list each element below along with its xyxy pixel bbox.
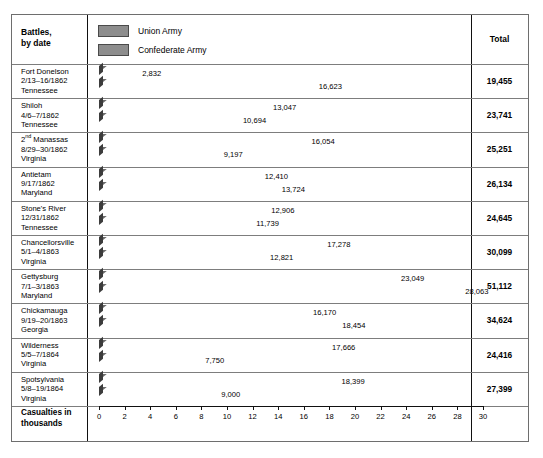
battle-label: Spotsylvania5/8–19/1864Virginia (21, 375, 87, 403)
confederate-bar[interactable]: 13,724 (99, 184, 275, 195)
table-row[interactable]: Shiloh4/6–7/1862Tennessee13,04710,69423,… (12, 98, 528, 132)
union-bar[interactable]: 23,049 (99, 273, 394, 284)
axis-tick (201, 406, 202, 410)
axis-tick-label: 2 (122, 412, 126, 421)
legend: Union Army Confederate Army (98, 23, 207, 61)
total-value: 19,455 (471, 76, 528, 86)
total-value: 30,099 (471, 247, 528, 257)
axis-tick (406, 406, 407, 410)
bar-group: 16,17018,454 (99, 303, 528, 337)
axis-line (99, 406, 483, 407)
union-bar[interactable]: 17,278 (99, 239, 320, 250)
axis-tick-label: 16 (300, 412, 308, 421)
axis-tick (176, 406, 177, 410)
total-value: 23,741 (471, 110, 528, 120)
confederate-bar-value: 9,197 (224, 149, 243, 160)
union-bar-value: 12,906 (271, 205, 294, 216)
confederate-bar[interactable]: 9,197 (99, 149, 217, 160)
confederate-bar[interactable]: 18,454 (99, 320, 335, 331)
axis-tick (457, 406, 458, 410)
battles-column-heading: Battles, by date (21, 27, 85, 49)
union-bar[interactable]: 18,399 (99, 376, 335, 387)
table-row[interactable]: Chancellorsville5/1–4/1863Virginia17,278… (12, 235, 528, 269)
battle-date: 7/1–3/1863 (21, 282, 87, 291)
battle-state: Tennessee (21, 120, 87, 129)
table-row[interactable]: Gettysburg7/1–3/1863Maryland23,04928,063… (12, 269, 528, 303)
confederate-bar[interactable]: 12,821 (99, 252, 263, 263)
union-bar[interactable]: 2,832 (99, 68, 135, 79)
table-row[interactable]: 2nd Manassas8/29–30/1862Virginia16,0549,… (12, 132, 528, 166)
legend-item-confederate: Confederate Army (98, 42, 207, 58)
union-bar[interactable]: 12,906 (99, 205, 264, 216)
battle-name: Fort Donelson (21, 67, 87, 76)
total-value: 51,112 (471, 281, 528, 291)
battle-label: Stone's River12/31/1862Tennessee (21, 204, 87, 232)
union-bar[interactable]: 17,666 (99, 342, 325, 353)
union-bar-value: 23,049 (401, 273, 424, 284)
battle-state: Virginia (21, 359, 87, 368)
battle-date: 4/6–7/1862 (21, 111, 87, 120)
confederate-bar-value: 13,724 (282, 184, 305, 195)
table-row[interactable]: Fort Donelson2/13–16/1862Tennessee2,8321… (12, 64, 528, 98)
axis-tick-label: 22 (376, 412, 384, 421)
battle-state: Tennessee (21, 223, 87, 232)
battle-label: Gettysburg7/1–3/1863Maryland (21, 272, 87, 300)
battle-label: Chickamauga9/19–20/1863Georgia (21, 306, 87, 334)
union-bar[interactable]: 16,054 (99, 136, 304, 147)
bar-group: 13,04710,694 (99, 98, 528, 132)
battle-label: 2nd Manassas8/29–30/1862Virginia (21, 135, 87, 163)
union-bar-value: 17,278 (327, 239, 350, 250)
battle-date: 2/13–16/1862 (21, 76, 87, 85)
table-row[interactable]: Wilderness5/5–7/1864Virginia17,6667,7502… (12, 338, 528, 372)
bar-group: 2,83216,623 (99, 64, 528, 98)
bar-group: 17,27812,821 (99, 235, 528, 269)
total-value: 24,416 (471, 350, 528, 360)
battle-date: 8/29–30/1862 (21, 145, 87, 154)
bar-group: 16,0549,197 (99, 132, 528, 166)
confederate-bar-value: 9,000 (221, 389, 240, 400)
axis-tick-label: 10 (223, 412, 231, 421)
union-bar-value: 17,666 (332, 342, 355, 353)
union-bar-value: 16,170 (313, 307, 336, 318)
axis-tick (381, 406, 382, 410)
axis-tick-label: 0 (97, 412, 101, 421)
battle-name: Spotsylvania (21, 375, 87, 384)
union-bar[interactable]: 13,047 (99, 102, 266, 113)
table-row[interactable]: Spotsylvania5/8–19/1864Virginia18,3999,0… (12, 372, 528, 406)
confederate-bar[interactable]: 9,000 (99, 389, 214, 400)
confederate-bar[interactable]: 10,694 (99, 115, 236, 126)
table-row[interactable]: Stone's River12/31/1862Tennessee12,90611… (12, 201, 528, 235)
total-value: 24,645 (471, 213, 528, 223)
confederate-bar-value: 12,821 (270, 252, 293, 263)
confederate-bar-value: 11,739 (256, 218, 279, 229)
axis-tick (125, 406, 126, 410)
battle-date: 5/5–7/1864 (21, 350, 87, 359)
confederate-bar[interactable]: 28,063 (99, 286, 458, 297)
table-row[interactable]: Antietam9/17/1862Maryland12,41013,72426,… (12, 167, 528, 201)
union-bar[interactable]: 12,410 (99, 171, 258, 182)
battle-label: Wilderness5/5–7/1864Virginia (21, 341, 87, 369)
bar-group: 12,90611,739 (99, 201, 528, 235)
table-row[interactable]: Chickamauga9/19–20/1863Georgia16,17018,4… (12, 303, 528, 337)
battle-label: Chancellorsville5/1–4/1863Virginia (21, 238, 87, 266)
confederate-bar[interactable]: 16,623 (99, 81, 312, 92)
battle-date: 12/31/1862 (21, 213, 87, 222)
battle-name: Gettysburg (21, 272, 87, 281)
union-bar[interactable]: 16,170 (99, 307, 306, 318)
union-bar-value: 12,410 (265, 171, 288, 182)
total-value: 34,624 (471, 315, 528, 325)
battle-state: Virginia (21, 257, 87, 266)
battle-name: Shiloh (21, 101, 87, 110)
axis-tick-label: 8 (199, 412, 203, 421)
battle-label: Antietam9/17/1862Maryland (21, 170, 87, 198)
battle-state: Georgia (21, 325, 87, 334)
battle-name: Wilderness (21, 341, 87, 350)
axis-tick-label: 14 (274, 412, 282, 421)
chart-header: Battles, by date Union Army Confederate … (12, 15, 528, 64)
battles-heading-line1: Battles, (21, 27, 85, 38)
confederate-bar[interactable]: 11,739 (99, 218, 249, 229)
battle-label: Shiloh4/6–7/1862Tennessee (21, 101, 87, 129)
battle-date: 5/1–4/1863 (21, 247, 87, 256)
axis-tick (304, 406, 305, 410)
confederate-bar[interactable]: 7,750 (99, 355, 198, 366)
